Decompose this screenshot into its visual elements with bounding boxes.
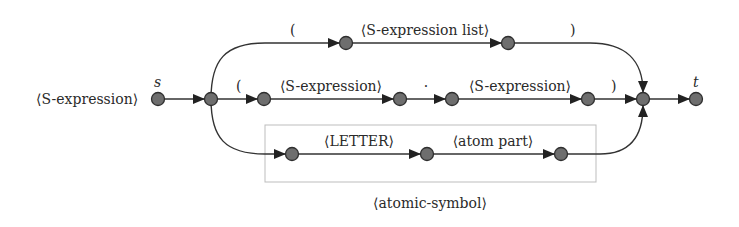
node-bot-2: [421, 148, 434, 161]
edges: [164, 43, 689, 154]
edge-bot-enter: [211, 99, 285, 154]
edge-bot-exit: [567, 106, 643, 154]
label-mid-dot: ·: [424, 78, 428, 94]
node-mid-3: [446, 93, 459, 106]
node-top-2: [502, 37, 515, 50]
node-mid-2: [394, 93, 407, 106]
label-top-close: ): [570, 22, 575, 38]
syntax-diagram: ⟨S-expression⟩ s t ( ⟨S-expression list⟩…: [0, 0, 739, 227]
end-label: t: [693, 74, 699, 90]
box-label: ⟨atomic-symbol⟩: [373, 195, 487, 211]
diagram-title: ⟨S-expression⟩: [36, 91, 138, 107]
node-branch: [205, 93, 218, 106]
label-mid-close: ): [611, 78, 616, 94]
node-bot-1: [286, 148, 299, 161]
node-merge: [637, 93, 650, 106]
label-top-list: ⟨S-expression list⟩: [361, 22, 489, 38]
start-label: s: [154, 74, 161, 90]
label-mid-sexpr1: ⟨S-expression⟩: [280, 78, 382, 94]
node-mid-4: [582, 93, 595, 106]
node-mid-1: [258, 93, 271, 106]
node-start: [152, 93, 165, 106]
label-mid-open: (: [236, 78, 241, 94]
node-bot-3: [555, 148, 568, 161]
label-top-open: (: [290, 22, 295, 38]
label-bot-letter: ⟨LETTER⟩: [324, 133, 394, 149]
node-top-1: [340, 37, 353, 50]
node-end: [690, 93, 703, 106]
label-mid-sexpr2: ⟨S-expression⟩: [469, 78, 571, 94]
label-bot-atom: ⟨atom part⟩: [453, 133, 534, 149]
